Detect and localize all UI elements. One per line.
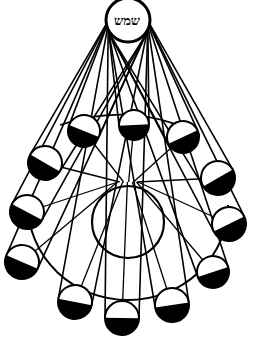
moon-left-2 <box>4 189 50 235</box>
sight-line <box>137 182 214 272</box>
moon-left-1 <box>22 140 68 186</box>
moon-bottom-left <box>55 282 95 322</box>
moon-orbit <box>28 205 228 300</box>
sun-moon-phases-diagram <box>0 0 258 345</box>
sight-line <box>122 182 127 318</box>
moon-right-1 <box>195 155 241 201</box>
earth-circle <box>92 186 164 258</box>
light-ray <box>139 26 148 318</box>
moon-right-2 <box>206 201 252 247</box>
moon-right-3 <box>193 252 234 293</box>
moon-bottom <box>105 301 140 336</box>
moon-top <box>118 109 150 141</box>
sun-label: שמש <box>104 13 150 29</box>
moon-bottom-right <box>153 286 192 325</box>
light-ray <box>105 26 108 318</box>
